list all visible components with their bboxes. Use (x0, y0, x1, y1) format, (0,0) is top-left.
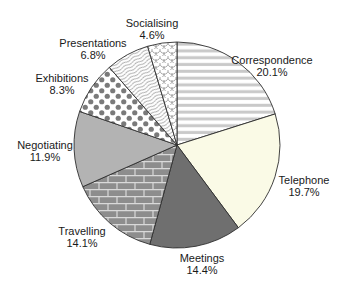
slice-percent-exhibitions: 8.3% (49, 84, 74, 96)
slice-percent-correspondence: 20.1% (256, 66, 287, 78)
slice-label-exhibitions: Exhibitions (35, 72, 89, 84)
slice-label-negotiating: Negotiating (17, 139, 73, 151)
slice-percent-meetings: 14.4% (186, 264, 217, 276)
slice-label-presentations: Presentations (59, 37, 127, 49)
slice-percent-socialising: 4.6% (139, 29, 164, 41)
slice-label-meetings: Meetings (180, 252, 225, 264)
slice-percent-travelling: 14.1% (66, 237, 97, 249)
pie-chart-figure: Correspondence20.1%Telephone19.7%Meeting… (0, 0, 339, 286)
pie-chart-canvas: Correspondence20.1%Telephone19.7%Meeting… (0, 0, 339, 286)
slice-label-telephone: Telephone (279, 174, 330, 186)
slice-percent-telephone: 19.7% (288, 186, 319, 198)
pie-slices-group (74, 42, 280, 248)
slice-label-socialising: Socialising (126, 17, 179, 29)
slice-label-correspondence: Correspondence (231, 54, 312, 66)
slice-label-travelling: Travelling (58, 225, 105, 237)
slice-percent-negotiating: 11.9% (30, 151, 61, 163)
slice-percent-presentations: 6.8% (80, 49, 105, 61)
